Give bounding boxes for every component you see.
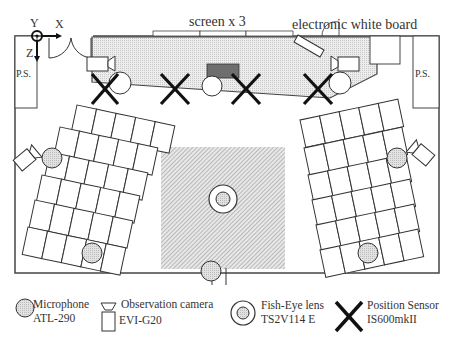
microphone-right-upper	[387, 148, 407, 168]
screens	[153, 31, 293, 36]
camera-side-left	[13, 145, 42, 173]
legend-microphone-icon	[16, 299, 34, 317]
camera-side-right	[406, 140, 435, 168]
microphone-stage-center	[202, 76, 222, 96]
microphone-right-lower	[358, 243, 378, 263]
door	[47, 34, 93, 58]
legend-fisheye-icon	[231, 301, 255, 325]
classroom-layout-diagram	[0, 0, 450, 350]
coordinate-axes	[32, 31, 62, 62]
power-supply-left	[15, 36, 37, 108]
legend-camera-icon	[101, 303, 116, 331]
microphone-left-upper	[42, 148, 62, 168]
whiteboard-door-arc	[322, 22, 339, 36]
power-supply-right	[413, 36, 439, 108]
cabinet-right	[370, 36, 400, 64]
fisheye-lens	[209, 185, 237, 213]
microphone-left-lower	[82, 243, 102, 263]
legend-position-sensor-icon	[336, 302, 362, 331]
